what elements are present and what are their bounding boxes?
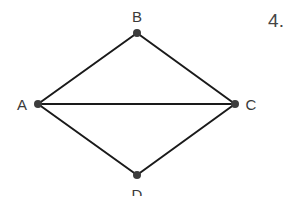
edge-a-d: [38, 104, 137, 175]
node-d-label: D: [132, 187, 143, 197]
node-c-label: C: [246, 97, 257, 112]
node-d-dot: [133, 171, 141, 179]
graph-edges: [38, 33, 235, 175]
node-b-dot: [133, 29, 141, 37]
edge-d-c: [137, 104, 235, 175]
problem-number: 4.: [268, 11, 284, 30]
edge-a-b: [38, 33, 137, 104]
node-c-dot: [231, 100, 239, 108]
edge-b-c: [137, 33, 235, 104]
node-a-dot: [34, 100, 42, 108]
node-a-label: A: [17, 97, 27, 112]
node-b-label: B: [132, 9, 142, 24]
